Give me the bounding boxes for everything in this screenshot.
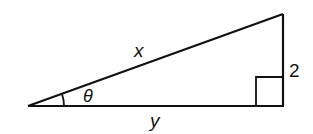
angle-label: θ: [83, 86, 93, 106]
right-angle-marker: [256, 77, 283, 106]
hypotenuse-side: [28, 14, 283, 106]
hypotenuse-label: x: [133, 40, 145, 61]
triangle-svg: x 2 θ y: [0, 0, 313, 134]
adjacent-label: y: [148, 110, 161, 131]
angle-arc: [62, 94, 64, 106]
opposite-label: 2: [289, 60, 300, 81]
triangle-diagram: x 2 θ y: [0, 0, 313, 134]
